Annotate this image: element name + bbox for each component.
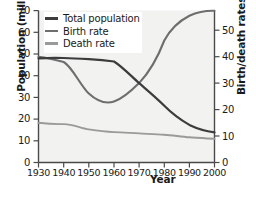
line-swatch-icon <box>45 30 58 33</box>
legend-item-birth-rate: Birth rate <box>45 26 140 37</box>
line-swatch-icon <box>45 17 58 20</box>
y-axis-right-tick-label: 30 <box>222 78 248 89</box>
legend-item-label: Birth rate <box>63 26 109 37</box>
y-axis-right-ticks <box>215 30 220 162</box>
y-axis-left-tick-label: 20 <box>4 113 30 124</box>
y-axis-left-tick-label: 50 <box>4 48 30 59</box>
y-axis-right-tick-label: 40 <box>222 51 248 62</box>
line-swatch-icon <box>45 42 58 45</box>
chart-legend: Total population Birth rate Death rate <box>44 12 142 53</box>
y-axis-left-tick-label: 70 <box>4 5 30 16</box>
y-axis-right-tick-label: 50 <box>222 25 248 36</box>
y-axis-left-tick-label: 40 <box>4 70 30 81</box>
y-axis-left-tick-label: 60 <box>4 27 30 38</box>
chart-container: Population (millions) Birth/death rates … <box>0 0 256 200</box>
y-axis-right-tick-label: 10 <box>222 131 248 142</box>
y-axis-right-tick-label: 20 <box>222 104 248 115</box>
legend-item-label: Total population <box>63 13 140 24</box>
legend-item-label: Death rate <box>63 38 115 49</box>
y-axis-left-tick-label: 10 <box>4 135 30 146</box>
y-axis-left-ticks <box>34 11 39 163</box>
y-axis-left-tick-label: 30 <box>4 92 30 103</box>
legend-item-total-population: Total population <box>45 13 140 24</box>
legend-item-death-rate: Death rate <box>45 38 140 49</box>
x-axis-tick-label: 2000 <box>200 167 230 178</box>
